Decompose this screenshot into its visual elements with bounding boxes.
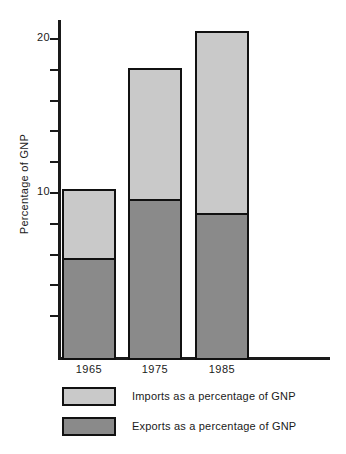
bar-1985	[195, 31, 249, 360]
y-axis-tick	[50, 254, 59, 256]
y-axis-tick	[50, 69, 59, 71]
y-axis-tick	[50, 223, 59, 225]
bar-segment-exports-1985	[195, 213, 249, 360]
x-axis-label-1965: 1965	[62, 363, 116, 375]
y-axis-tick	[50, 38, 59, 40]
y-axis-tick	[50, 284, 59, 286]
y-axis-title: Percentage of GNP	[18, 114, 30, 254]
y-axis-line	[58, 20, 61, 360]
bar-segment-imports-1985	[195, 31, 249, 215]
legend-label-exports: Exports as a percentage of GNP	[132, 420, 296, 433]
legend-item-exports: Exports as a percentage of GNP	[62, 416, 342, 438]
legend-item-imports: Imports as a percentage of GNP	[62, 386, 342, 408]
bar-1975	[128, 68, 182, 360]
y-axis-label-10: 10	[22, 186, 50, 197]
legend-swatch-imports-icon	[62, 387, 116, 406]
y-axis-tick	[50, 130, 59, 132]
x-axis-label-1985: 1985	[195, 363, 249, 375]
x-axis-label-1975: 1975	[128, 363, 182, 375]
bar-segment-imports-1975	[128, 68, 182, 201]
chart-legend: Imports as a percentage of GNP Exports a…	[62, 386, 342, 446]
legend-label-imports: Imports as a percentage of GNP	[132, 390, 296, 403]
bar-segment-imports-1965	[62, 189, 116, 260]
y-axis-tick	[50, 192, 59, 194]
legend-swatch-exports-icon	[62, 417, 116, 436]
bar-segment-exports-1965	[62, 258, 116, 360]
bar-1965	[62, 189, 116, 360]
stacked-bar-chart: Percentage of GNP 20 10 1965 1975 1985	[0, 0, 346, 454]
y-axis-tick	[50, 100, 59, 102]
y-axis-label-20: 20	[22, 32, 50, 43]
bar-segment-exports-1975	[128, 199, 182, 360]
y-axis-tick	[50, 161, 59, 163]
y-axis-tick	[50, 315, 59, 317]
